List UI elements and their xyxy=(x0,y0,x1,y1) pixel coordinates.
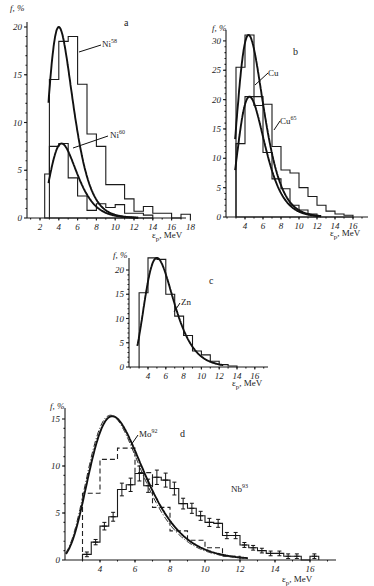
y-tick-label: 10 xyxy=(212,153,222,163)
y-tick-label: 30 xyxy=(211,36,222,46)
y-tick-label: 10 xyxy=(115,314,125,324)
series-label: Ni58 xyxy=(102,38,117,49)
y-tick-label: 5 xyxy=(18,165,23,175)
x-tick-label: 12 xyxy=(215,371,225,381)
y-tick-label: 15 xyxy=(212,124,222,134)
panel-b: 05101520253046810121416f, %εp, MeVbCuCu6… xyxy=(211,23,368,241)
panel-letter: a xyxy=(124,17,129,28)
y-axis-label: f, % xyxy=(113,250,128,260)
panel-letter: b xyxy=(293,46,298,57)
series-label: Mo92 xyxy=(139,428,158,439)
x-tick-label: 18 xyxy=(186,222,196,232)
x-tick-label: 4 xyxy=(243,221,248,231)
series-label: Cu65 xyxy=(280,115,297,126)
x-tick-label: 4 xyxy=(146,371,151,381)
y-tick-label: 15 xyxy=(115,289,125,299)
y-tick-label: 15 xyxy=(51,414,61,424)
x-tick-label: 6 xyxy=(133,564,138,574)
panel-letter: c xyxy=(209,275,214,286)
calculated-curve xyxy=(137,258,223,365)
x-axis-label: εp, MeV xyxy=(282,574,313,586)
y-tick-label: 15 xyxy=(13,70,23,80)
x-tick-label: 4 xyxy=(98,564,103,574)
y-tick-label: 10 xyxy=(13,118,23,128)
histogram-mo92 xyxy=(83,448,241,560)
x-tick-label: 12 xyxy=(130,222,140,232)
y-tick-label: 0 xyxy=(18,213,23,223)
y-axis-label: f, % xyxy=(10,3,25,13)
y-axis-label: f, % xyxy=(212,23,227,33)
panel-d: 05101546810121416f, %εp, MeVdMo92Nb93 xyxy=(50,401,336,586)
y-tick-label: 5 xyxy=(120,338,125,348)
calculated-curve xyxy=(235,97,321,217)
y-tick-label: 25 xyxy=(212,65,222,75)
histogram-zn xyxy=(139,258,237,367)
y-tick-label: 5 xyxy=(56,508,61,518)
y-tick-label: 5 xyxy=(217,183,222,193)
x-tick-label: 10 xyxy=(201,564,211,574)
y-tick-label: 0 xyxy=(217,212,222,222)
calculated-curve xyxy=(66,416,248,558)
x-tick-label: 8 xyxy=(279,221,284,231)
series-label: Nb93 xyxy=(231,483,248,494)
x-tick-label: 6 xyxy=(75,222,80,232)
x-tick-label: 10 xyxy=(197,371,207,381)
histogram-ni60 xyxy=(45,144,153,218)
y-tick-label: 10 xyxy=(51,461,61,471)
x-tick-label: 6 xyxy=(261,221,266,231)
panel-letter: d xyxy=(180,428,185,439)
x-tick-label: 12 xyxy=(313,221,323,231)
y-tick-label: 0 xyxy=(56,555,61,565)
x-tick-label: 8 xyxy=(94,222,99,232)
y-tick-label: 20 xyxy=(115,265,125,275)
panel-c: 0510152046810121416f, %εp, MeVcZn xyxy=(113,250,268,391)
series-label: Ni60 xyxy=(110,129,125,140)
x-tick-label: 8 xyxy=(168,564,173,574)
histogram-ni58 xyxy=(49,37,190,218)
x-tick-label: 2 xyxy=(38,222,43,232)
x-tick-label: 12 xyxy=(236,564,246,574)
x-tick-label: 6 xyxy=(164,371,169,381)
y-axis-label: f, % xyxy=(50,401,65,411)
figure-four-panel-proton-spectra: 0510152024681012141618f, %εp, MeVaNi58Ni… xyxy=(0,0,374,586)
x-tick-label: 16 xyxy=(306,564,316,574)
series-label: Zn xyxy=(181,297,191,307)
panel-a: 0510152024681012141618f, %εp, MeVaNi58Ni… xyxy=(10,3,195,243)
y-tick-label: 20 xyxy=(212,95,222,105)
y-tick-label: 0 xyxy=(120,362,125,372)
series-label: Cu xyxy=(268,68,279,78)
y-tick-label: 20 xyxy=(13,22,23,32)
calculated-curve xyxy=(66,415,248,558)
x-tick-label: 10 xyxy=(111,222,121,232)
x-tick-label: 10 xyxy=(295,221,305,231)
x-tick-label: 14 xyxy=(271,564,281,574)
x-tick-label: 4 xyxy=(57,222,62,232)
x-tick-label: 8 xyxy=(181,371,186,381)
